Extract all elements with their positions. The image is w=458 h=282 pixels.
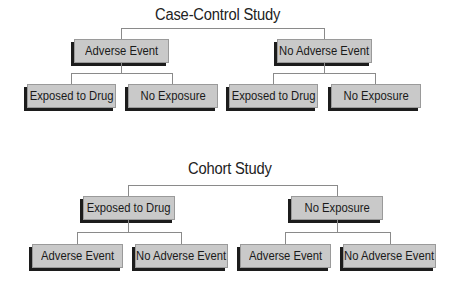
connector xyxy=(285,232,391,233)
node-no-adverse-event: No Adverse Event xyxy=(277,39,372,63)
connector xyxy=(121,63,122,73)
node-label: No Exposure xyxy=(304,201,369,215)
node-label: No Adverse Event xyxy=(136,249,226,263)
connector xyxy=(71,73,173,74)
node-no-exposure: No Exposure xyxy=(331,84,421,108)
connector xyxy=(121,28,122,39)
connector xyxy=(337,185,338,196)
connector xyxy=(324,28,325,39)
case-control-title: Case-Control Study xyxy=(155,6,280,24)
node-no-adverse-event: No Adverse Event xyxy=(343,244,436,268)
connector xyxy=(128,185,338,186)
connector xyxy=(172,73,173,84)
connector xyxy=(375,73,376,84)
node-label: Adverse Event xyxy=(41,249,114,263)
connector xyxy=(273,73,376,74)
node-exposed-to-drug: Exposed to Drug xyxy=(27,84,116,108)
connector xyxy=(390,232,391,244)
connector xyxy=(181,232,182,244)
node-label: Exposed to Drug xyxy=(232,89,316,103)
node-no-exposure: No Exposure xyxy=(128,84,218,108)
node-label: Adverse Event xyxy=(85,44,158,58)
connector xyxy=(128,185,129,196)
node-label: Exposed to Drug xyxy=(30,89,114,103)
connector xyxy=(77,232,78,244)
cohort-title: Cohort Study xyxy=(188,160,272,178)
node-label: No Adverse Event xyxy=(279,44,369,58)
node-label: No Exposure xyxy=(343,89,408,103)
connector xyxy=(121,28,325,29)
node-no-adverse-event: No Adverse Event xyxy=(135,244,228,268)
node-adverse-event: Adverse Event xyxy=(32,244,123,268)
node-label: No Adverse Event xyxy=(344,249,434,263)
connector xyxy=(324,63,325,73)
connector xyxy=(337,220,338,232)
connector xyxy=(273,73,274,84)
connector xyxy=(71,73,72,84)
node-adverse-event: Adverse Event xyxy=(240,244,331,268)
connector xyxy=(128,220,129,232)
connector xyxy=(285,232,286,244)
node-label: Adverse Event xyxy=(249,249,322,263)
node-label: Exposed to Drug xyxy=(87,201,171,215)
connector xyxy=(77,232,182,233)
node-label: No Exposure xyxy=(140,89,205,103)
node-exposed-to-drug: Exposed to Drug xyxy=(83,196,175,220)
node-exposed-to-drug: Exposed to Drug xyxy=(229,84,318,108)
node-adverse-event: Adverse Event xyxy=(74,39,169,63)
node-no-exposure: No Exposure xyxy=(291,196,383,220)
